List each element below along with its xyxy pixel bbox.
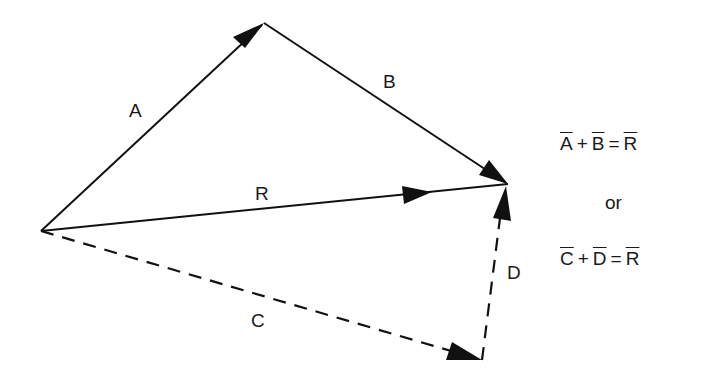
eq1-plus: + (573, 133, 592, 154)
equation-c-plus-d: C+D=R (560, 248, 700, 270)
arrowhead-r-icon (402, 186, 432, 204)
arrowhead-a-icon (233, 23, 264, 48)
eq1-term-b: B (592, 133, 605, 154)
eq2-equals: = (607, 248, 626, 269)
equation-connector-or: or (605, 192, 622, 214)
eq1-term-a: A (560, 133, 573, 154)
label-r: R (255, 183, 269, 204)
vector-diagram-canvas: A B R C D (0, 0, 705, 379)
label-a: A (129, 100, 142, 121)
arrowhead-b-icon (479, 160, 508, 184)
eq2-term-d: D (593, 248, 607, 269)
vector-diagram: A B R C D A+B=R or C+D=R (0, 0, 705, 379)
eq1-term-r: R (624, 133, 638, 154)
equation-a-plus-b: A+B=R (560, 133, 700, 155)
eq2-term-r: R (626, 248, 640, 269)
label-d: D (507, 262, 521, 283)
label-c: C (251, 310, 265, 331)
vector-c (41, 231, 482, 360)
eq2-term-c: C (560, 248, 574, 269)
vector-a (41, 23, 264, 231)
arrowhead-d-icon (493, 186, 511, 221)
vector-r (41, 184, 508, 231)
label-b: B (383, 71, 396, 92)
arrowhead-c-icon (446, 342, 482, 360)
vector-b (264, 23, 508, 184)
eq1-equals: = (604, 133, 623, 154)
eq2-plus: + (574, 248, 593, 269)
